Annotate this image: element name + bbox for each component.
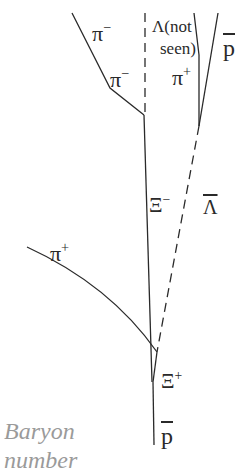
pi-plus-lower-track (27, 247, 157, 352)
label-lambda-not-seen-2: seen) (160, 40, 196, 57)
label-xi-plus: Ξ+ (161, 369, 182, 392)
xi-plus-track (153, 352, 157, 382)
label-pbar-top: p (223, 36, 235, 60)
particle-track-diagram: π− π− Λ(not seen) π+ p Ξ− Λ π+ Ξ+ p Bary… (0, 0, 250, 476)
label-pi-plus-lower: π+ (50, 240, 69, 265)
pi-plus-upper-track (194, 13, 199, 126)
label-lambda-bar: Λ (203, 197, 218, 217)
pbar-upper-track (199, 13, 218, 126)
caption-baryon-number: Baryon number (4, 417, 77, 475)
caption-line-2: number (4, 446, 77, 475)
label-xi-minus: Ξ− (149, 193, 170, 216)
label-pi-minus-mid: π− (110, 66, 129, 91)
label-pbar-bottom: p (161, 424, 173, 448)
label-pi-plus-top: π+ (172, 64, 191, 89)
caption-line-1: Baryon (4, 417, 77, 446)
lambda-bar-track (157, 126, 199, 352)
pbar-lower-track (153, 382, 154, 445)
xi-minus-track (144, 115, 152, 382)
label-lambda-not-seen-1: Λ(not (152, 18, 192, 35)
label-pi-minus-top: π− (92, 20, 111, 45)
